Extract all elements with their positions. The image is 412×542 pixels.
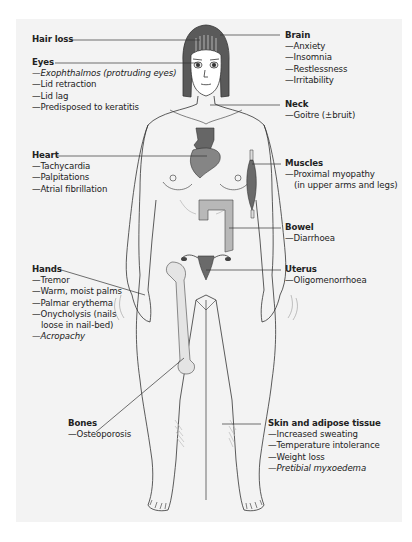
label-heading: Muscles [285,158,398,169]
label-hands: Hands —Tremor —Warm, moist palms —Palmar… [32,264,122,342]
left-arm-outline [126,125,156,322]
face-illustration [191,50,221,96]
label-item: —Increased sweating [268,429,381,440]
label-item: —Anxiety [285,41,347,52]
label-heart: Heart —Tachycardia —Palpitations —Atrial… [32,150,107,195]
label-bowel: Bowel —Diarrhoea [285,222,335,244]
label-heading: Eyes [32,57,176,68]
label-item: —Restlessness [285,64,347,75]
label-heading: Brain [285,30,347,41]
label-item: loose in nail-bed) [32,320,122,331]
label-brain: Brain —Anxiety —Insomnia —Restlessness —… [285,30,347,86]
label-item: —Pretibial myxoedema [268,463,381,474]
label-heading: Bowel [285,222,335,233]
label-heading: Uterus [285,264,367,275]
muscle-illustration [247,160,256,210]
label-item: —Weight loss [268,452,381,463]
label-bones: Bones —Osteoporosis [68,418,131,440]
heart-illustration [190,128,220,178]
label-item: —Osteoporosis [68,429,131,440]
label-skin-adipose: Skin and adipose tissue —Increased sweat… [268,418,381,474]
label-item: —Exophthalmos (protruding eyes) [32,68,176,79]
label-item: —Predisposed to keratitis [32,102,176,113]
label-item: —Palpitations [32,172,107,183]
label-heading: Neck [285,99,355,110]
label-heading: Heart [32,150,107,161]
label-heading: Bones [68,418,131,429]
uterus-illustration [181,255,231,280]
right-arm-outline [256,125,286,322]
label-heading: Skin and adipose tissue [268,418,381,429]
label-eyes: Eyes —Exophthalmos (protruding eyes) —Li… [32,57,176,113]
label-item: —Diarrhoea [285,233,335,244]
femur-illustration [166,262,194,374]
bowel-illustration [199,200,233,252]
label-item: (in upper arms and legs) [285,180,398,191]
label-item: —Temperature intolerance [268,440,381,451]
label-muscles: Muscles —Proximal myopathy (in upper arm… [285,158,398,192]
label-hair-loss: Hair loss [32,34,73,45]
label-item: —Atrial fibrillation [32,184,107,195]
label-item: —Lid lag [32,91,176,102]
label-item: —Tachycardia [32,161,107,172]
label-item: —Lid retraction [32,79,176,90]
label-item: —Goitre (±bruit) [285,110,355,121]
label-item: —Tremor [32,275,122,286]
label-item: —Insomnia [285,52,347,63]
label-heading: Hands [32,264,122,275]
label-item: —Palmar erythema [32,298,122,309]
label-item: —Acropachy [32,331,122,342]
label-item: —Onycholysis (nails [32,309,122,320]
label-item: —Irritability [285,75,347,86]
label-item: —Proximal myopathy [285,169,398,180]
label-item: —Oligomenorrhoea [285,275,367,286]
label-neck: Neck —Goitre (±bruit) [285,99,355,121]
label-item: —Warm, moist palms [32,286,122,297]
label-uterus: Uterus —Oligomenorrhoea [285,264,367,286]
label-heading: Hair loss [32,34,73,45]
